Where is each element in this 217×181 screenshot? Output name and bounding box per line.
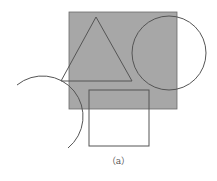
gray-square	[69, 12, 177, 109]
figure-caption: （a）	[0, 154, 217, 167]
